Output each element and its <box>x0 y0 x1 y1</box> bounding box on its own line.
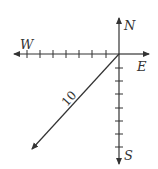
east-label: E <box>136 59 147 74</box>
south-label: S <box>124 148 133 163</box>
west-label: W <box>20 37 35 52</box>
north-label: N <box>123 18 136 33</box>
compass-diagram: N E W S 10 <box>0 0 158 169</box>
magnitude-label: 10 <box>59 88 80 109</box>
